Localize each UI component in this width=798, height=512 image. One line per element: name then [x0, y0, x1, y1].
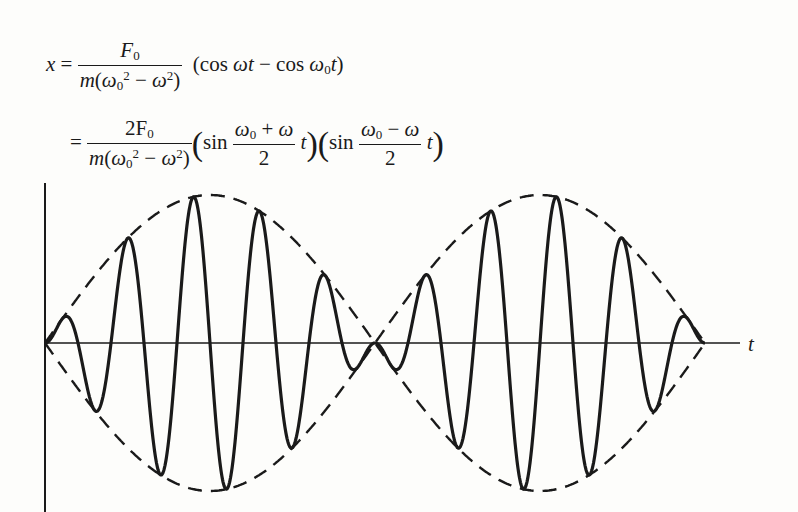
oscillation-curve — [45, 197, 705, 489]
envelope-upper-dashed — [45, 195, 705, 343]
beats-plot — [0, 0, 798, 512]
envelope-lower-dashed — [45, 343, 705, 491]
t-axis-label: t — [748, 332, 754, 357]
